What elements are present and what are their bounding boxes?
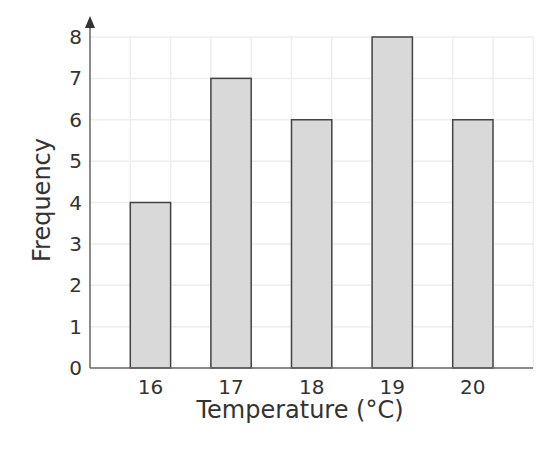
y-tick-label: 4 [69,191,82,215]
y-tick-label: 8 [69,25,82,49]
y-tick-label: 7 [69,66,82,90]
y-tick-label: 6 [69,108,82,132]
y-axis-title: Frequency [28,138,56,262]
y-axis-arrow-icon [85,16,95,28]
bar-16 [130,203,170,369]
y-tick-label: 1 [69,315,82,339]
bar-20 [453,120,493,368]
y-tick-label: 5 [69,149,82,173]
y-tick-labels: 012345678 [69,25,82,380]
x-axis-title: Temperature (°C) [195,396,403,424]
bar-chart: 012345678 1617181920 Temperature (°C) Fr… [0,0,558,449]
bar-18 [292,120,332,368]
y-tick-label: 2 [69,273,82,297]
x-tick-label: 16 [138,375,163,399]
x-tick-label: 20 [460,375,485,399]
bar-17 [211,78,251,368]
y-tick-label: 3 [69,232,82,256]
y-tick-label: 0 [69,356,82,380]
bar-19 [372,37,412,368]
